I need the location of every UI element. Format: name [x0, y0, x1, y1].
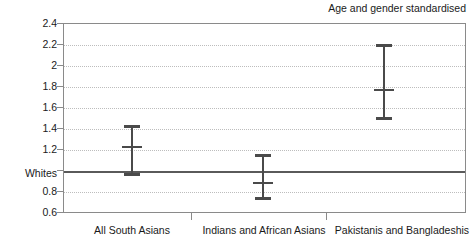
gridline-1-4 [64, 129, 465, 130]
errorbar-cap-upper [124, 125, 140, 128]
plot-area [63, 23, 466, 213]
y-tick-label-0-6: 0.6 [0, 207, 57, 218]
chart-container: Age and gender standardised 2.4 2.2 2 1.… [0, 0, 474, 248]
errorbar-whisker [262, 155, 264, 198]
errorbar-point-marker [122, 146, 142, 148]
gridline-1-6 [64, 108, 465, 109]
y-tick-label-2: 2 [0, 60, 57, 71]
gridline-2-2 [64, 45, 465, 46]
y-tick-label-2-4: 2.4 [0, 18, 57, 29]
x-tick-label-indians-and-african-asians: Indians and African Asians [195, 224, 333, 237]
gridline-1-2 [64, 150, 465, 151]
x-tick-mark-2 [326, 213, 327, 220]
errorbar-cap-upper [376, 44, 392, 47]
errorbar-cap-lower [255, 197, 271, 200]
y-tick-label-whites: Whites [0, 168, 57, 179]
errorbar-cap-lower [376, 117, 392, 120]
y-tick-label-1-6: 1.6 [0, 102, 57, 113]
errorbar-whisker [131, 126, 133, 174]
y-tick-label-1-4: 1.4 [0, 123, 57, 134]
x-tick-label-all-south-asians: All South Asians [73, 224, 191, 237]
gridline-1-8 [64, 87, 465, 88]
errorbar-cap-lower [124, 173, 140, 176]
y-tick-label-1-2: 1.2 [0, 144, 57, 155]
errorbar-point-marker [374, 89, 394, 91]
y-tick-label-0-8: 0.8 [0, 186, 57, 197]
errorbar-whisker [383, 45, 385, 118]
y-tick-label-1-8: 1.8 [0, 81, 57, 92]
chart-title: Age and gender standardised [328, 2, 466, 15]
gridline-0-8 [64, 192, 465, 193]
y-tick-label-2-2: 2.2 [0, 39, 57, 50]
errorbar-cap-upper [255, 154, 271, 157]
gridline-2 [64, 66, 465, 67]
x-tick-mark-1 [191, 213, 192, 220]
errorbar-point-marker [253, 182, 273, 184]
x-tick-label-pakistanis-and-bangladeshis: Pakistanis and Bangladeshis [330, 224, 474, 237]
